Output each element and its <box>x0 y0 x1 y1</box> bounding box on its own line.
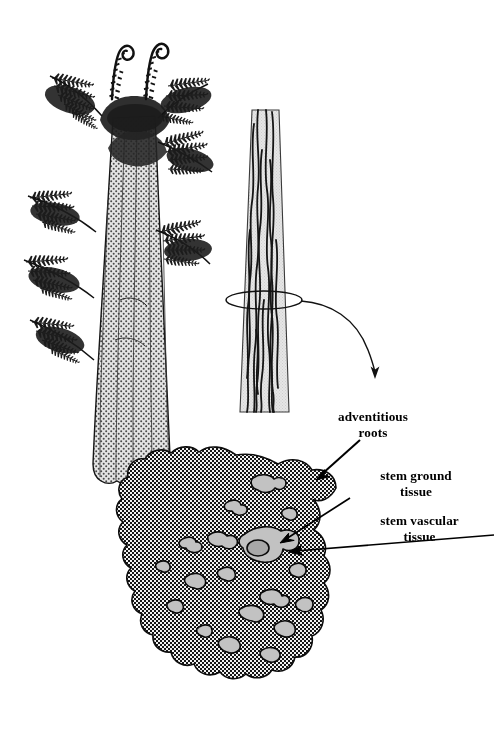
label-stem-ground-tissue: stem ground tissue <box>352 468 480 499</box>
label-adventitious-roots: adventitious roots <box>308 409 438 440</box>
botanical-figure: adventitious roots stem ground tissue st… <box>0 0 494 729</box>
figure-artwork <box>0 0 494 729</box>
label-stem-vascular-tissue: stem vascular tissue <box>352 513 487 544</box>
